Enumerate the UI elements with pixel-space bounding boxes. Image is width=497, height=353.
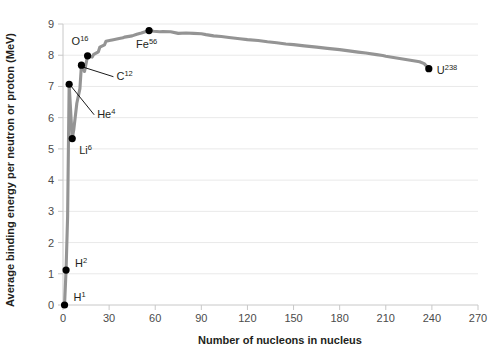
mass-number-U238: 238 bbox=[445, 63, 458, 72]
mass-number-O16: 16 bbox=[80, 34, 88, 43]
element-symbol-Fe56: Fe bbox=[136, 38, 149, 50]
y-tick-label-2: 2 bbox=[48, 237, 54, 249]
y-tick-label-8: 8 bbox=[48, 49, 54, 61]
data-point-marker-Fe56 bbox=[145, 27, 152, 34]
mass-number-H2: 2 bbox=[83, 256, 87, 265]
x-tick-label-210: 210 bbox=[377, 312, 395, 324]
data-point-label-Li6: Li6 bbox=[79, 143, 92, 156]
leader-line-C12 bbox=[83, 67, 113, 77]
element-symbol-H2: H bbox=[75, 257, 83, 269]
y-tick-label-3: 3 bbox=[48, 205, 54, 217]
mass-number-H1: 1 bbox=[81, 290, 85, 299]
binding-energy-chart-figure: 0306090120150180210240270 0123456789 H1H… bbox=[0, 0, 497, 353]
data-point-marker-He4 bbox=[66, 81, 73, 88]
y-tick-label-5: 5 bbox=[48, 143, 54, 155]
x-tick-label-150: 150 bbox=[284, 312, 302, 324]
y-tick-label-1: 1 bbox=[48, 268, 54, 280]
x-tick-label-240: 240 bbox=[423, 312, 441, 324]
data-point-marker-H2 bbox=[62, 266, 69, 273]
data-point-marker-Li6 bbox=[69, 135, 76, 142]
data-point-label-H1: H1 bbox=[74, 290, 86, 303]
element-symbol-Li6: Li bbox=[79, 144, 88, 156]
chart-canvas: 0306090120150180210240270 0123456789 H1H… bbox=[0, 0, 497, 353]
data-point-label-U238: U238 bbox=[437, 63, 457, 76]
data-point-labels-group: H1H2He4Li6C12O16Fe56U238 bbox=[72, 34, 458, 303]
data-point-markers-group bbox=[61, 27, 432, 309]
data-point-label-O16: O16 bbox=[72, 34, 89, 47]
data-point-label-He4: He4 bbox=[97, 107, 115, 120]
x-tick-label-120: 120 bbox=[238, 312, 256, 324]
y-tick-label-0: 0 bbox=[48, 299, 54, 311]
x-tick-label-180: 180 bbox=[330, 312, 348, 324]
mass-number-Li6: 6 bbox=[88, 143, 92, 152]
element-symbol-U238: U bbox=[437, 64, 445, 76]
mass-number-Fe56: 56 bbox=[149, 37, 157, 46]
y-tick-label-6: 6 bbox=[48, 112, 54, 124]
x-tick-label-0: 0 bbox=[60, 312, 66, 324]
x-tick-label-90: 90 bbox=[195, 312, 207, 324]
data-point-marker-C12 bbox=[78, 62, 85, 69]
y-tick-label-4: 4 bbox=[48, 174, 54, 186]
mass-number-C12: 12 bbox=[124, 69, 132, 78]
x-tick-labels-group: 0306090120150180210240270 bbox=[60, 312, 487, 324]
mass-number-He4: 4 bbox=[111, 107, 115, 116]
data-point-marker-H1 bbox=[61, 301, 68, 308]
data-point-label-H2: H2 bbox=[75, 256, 87, 269]
element-symbol-C12: C bbox=[116, 70, 124, 82]
data-point-label-C12: C12 bbox=[116, 69, 132, 82]
y-axis-title: Average binding energy per neutron or pr… bbox=[4, 33, 16, 307]
data-point-marker-O16 bbox=[84, 52, 91, 59]
x-axis-title: Number of nucleons in nucleus bbox=[198, 334, 362, 346]
data-point-label-Fe56: Fe56 bbox=[136, 37, 157, 50]
data-point-marker-U238 bbox=[425, 65, 432, 72]
y-tick-label-7: 7 bbox=[48, 80, 54, 92]
y-tick-labels-group: 0123456789 bbox=[48, 18, 54, 311]
x-tick-label-60: 60 bbox=[149, 312, 161, 324]
x-tick-label-30: 30 bbox=[103, 312, 115, 324]
y-tick-label-9: 9 bbox=[48, 18, 54, 30]
element-symbol-H1: H bbox=[74, 291, 82, 303]
x-tick-label-270: 270 bbox=[469, 312, 487, 324]
element-symbol-He4: He bbox=[97, 108, 111, 120]
axes-group bbox=[58, 24, 478, 310]
